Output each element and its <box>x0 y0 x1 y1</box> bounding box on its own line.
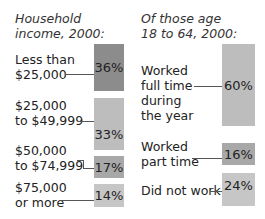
left-chart-title: Household income, 2000: <box>15 11 105 41</box>
label-line: or more <box>15 195 67 210</box>
value-label: 33% <box>95 127 124 142</box>
connector-line <box>194 86 222 87</box>
label-line: the year <box>141 108 193 123</box>
label-line: $25,000 <box>15 98 83 113</box>
label-line: Did not work <box>141 183 221 198</box>
bar-worked-full-time: 60% <box>222 44 255 126</box>
right-title-line2: 18 to 64, 2000: <box>141 26 237 41</box>
value-label: 60% <box>224 78 253 93</box>
label-line: full time <box>141 78 193 93</box>
label-line: during <box>141 93 193 108</box>
bar-less-than-25000: 36% <box>94 44 124 91</box>
value-label: 17% <box>95 160 124 175</box>
label-line: $75,000 <box>15 180 67 195</box>
left-label-0: Less than $25,000 <box>15 52 75 82</box>
label-line: Worked <box>141 139 199 154</box>
label-line: Worked <box>141 63 193 78</box>
connector-line <box>60 200 94 201</box>
label-line: $50,000 <box>15 143 83 158</box>
connector-line <box>78 121 94 122</box>
right-label-2: Did not work <box>141 183 221 198</box>
left-title-line2: income, 2000: <box>15 26 105 41</box>
right-chart-title: Of those age 18 to 64, 2000: <box>141 11 237 41</box>
bar-did-not-work: 24% <box>222 173 255 206</box>
bar-worked-part-time: 16% <box>222 143 255 165</box>
value-label: 16% <box>224 147 253 162</box>
bar-50000-to-74999: 17% <box>94 156 124 178</box>
label-line: to $74,999 <box>15 158 83 173</box>
connector-line <box>83 168 94 169</box>
value-label: 36% <box>95 60 124 75</box>
left-label-2: $50,000 to $74,999 <box>15 143 83 173</box>
right-label-1: Worked part time <box>141 139 199 169</box>
connector-line <box>210 191 222 192</box>
label-line: to $49,999 <box>15 113 83 128</box>
left-title-line1: Household <box>15 11 105 26</box>
bar-25000-to-49999: 33% <box>94 98 124 150</box>
right-label-0: Worked full time during the year <box>141 63 193 123</box>
left-label-1: $25,000 to $49,999 <box>15 98 83 128</box>
right-title-line1: Of those age <box>141 11 237 26</box>
bar-75000-or-more: 14% <box>94 184 124 207</box>
connector-line <box>65 74 94 75</box>
label-line: part time <box>141 154 199 169</box>
connector-line <box>192 158 222 159</box>
left-label-3: $75,000 or more <box>15 180 67 210</box>
value-label: 24% <box>224 178 253 193</box>
label-line: Less than <box>15 52 75 67</box>
value-label: 14% <box>95 188 124 203</box>
